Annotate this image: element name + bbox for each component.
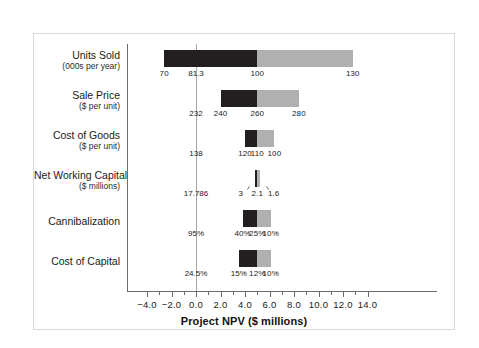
row-label-sub: ($ millions) xyxy=(34,181,120,192)
bar-segment-low xyxy=(164,50,257,67)
label-leader-line xyxy=(247,186,250,190)
tornado-row: Net Working Capital($ millions)17.78632.… xyxy=(34,168,454,208)
x-tick-major xyxy=(147,292,148,297)
breakeven-value-label: 17.786 xyxy=(184,189,208,198)
row-label: Sale Price($ per unit) xyxy=(34,89,120,112)
x-tick-major xyxy=(221,292,222,297)
driver-low-label: 240 xyxy=(214,109,228,118)
row-label: Net Working Capital($ millions) xyxy=(34,169,120,192)
driver-high-label: 100 xyxy=(268,149,282,158)
driver-base-label: 2.1 xyxy=(252,189,263,198)
x-tick-major xyxy=(270,292,271,297)
driver-high-label: 10% xyxy=(263,229,279,238)
bar-segment-low xyxy=(243,210,258,227)
x-axis-title: Project NPV ($ millions) xyxy=(34,315,454,327)
row-label-main: Cannibalization xyxy=(34,215,120,227)
driver-base-label: 110 xyxy=(251,149,264,158)
driver-high-label: 1.6 xyxy=(268,189,279,198)
driver-low-label: 15% xyxy=(231,269,247,278)
x-tick-label: 2.0 xyxy=(214,299,228,310)
x-tick-major xyxy=(319,292,320,297)
x-tick-label: 14.0 xyxy=(358,299,377,310)
x-tick-minor xyxy=(208,292,209,295)
driver-base-label: 100 xyxy=(250,69,264,78)
x-tick-minor xyxy=(282,292,283,295)
bar-segment-low xyxy=(239,250,257,267)
tornado-chart-plot: −4.0−2.00.02.04.06.08.010.012.014.0 Unit… xyxy=(34,34,454,329)
row-label-sub: (000s per year) xyxy=(34,61,120,72)
row-label: Cannibalization xyxy=(34,215,120,227)
x-tick-label: 8.0 xyxy=(287,299,301,310)
bar-segment-high xyxy=(257,130,274,147)
x-tick-major xyxy=(172,292,173,297)
row-label-main: Net Working Capital xyxy=(34,169,120,181)
x-tick-label: 4.0 xyxy=(238,299,252,310)
breakeven-value-label: 138 xyxy=(189,149,202,158)
row-label-main: Sale Price xyxy=(34,89,120,101)
breakeven-value-label: 81.3 xyxy=(188,69,204,78)
x-tick-minor xyxy=(355,292,356,295)
x-tick-minor xyxy=(184,292,185,295)
row-label: Units Sold(000s per year) xyxy=(34,49,120,72)
label-leader-line xyxy=(266,186,269,190)
x-tick-major xyxy=(245,292,246,297)
bar-segment-high xyxy=(257,210,270,227)
x-tick-minor xyxy=(159,292,160,295)
x-tick-minor xyxy=(233,292,234,295)
bar-segment-high xyxy=(257,90,299,107)
bar-segment-high xyxy=(257,170,259,187)
x-tick-major xyxy=(368,292,369,297)
driver-high-label: 280 xyxy=(292,109,306,118)
x-tick-label: −4.0 xyxy=(137,299,157,310)
driver-low-label: 3 xyxy=(239,189,244,198)
tornado-row: Units Sold(000s per year)81.370100130 xyxy=(34,48,454,88)
x-tick-label: 12.0 xyxy=(333,299,352,310)
bar-segment-high xyxy=(257,250,270,267)
x-tick-label: 6.0 xyxy=(263,299,277,310)
breakeven-value-label: 95% xyxy=(188,229,204,238)
tornado-row: Cannibalization95%40%25%10% xyxy=(34,208,454,248)
driver-high-label: 10% xyxy=(263,269,279,278)
x-tick-major xyxy=(294,292,295,297)
row-label-main: Cost of Capital xyxy=(34,255,120,267)
row-label-main: Cost of Goods xyxy=(34,129,120,141)
bar-segment-high xyxy=(257,50,353,67)
x-tick-minor xyxy=(306,292,307,295)
driver-high-label: 130 xyxy=(346,69,360,78)
row-label: Cost of Goods($ per unit) xyxy=(34,129,120,152)
driver-base-label: 260 xyxy=(250,109,264,118)
x-tick-label: −2.0 xyxy=(162,299,182,310)
row-label-sub: ($ per unit) xyxy=(34,101,120,112)
driver-low-label: 70 xyxy=(160,69,169,78)
breakeven-value-label: 24.5% xyxy=(185,269,208,278)
breakeven-value-label: 232 xyxy=(189,109,202,118)
tornado-row: Sale Price($ per unit)232240260280 xyxy=(34,88,454,128)
tornado-row: Cost of Capital24.5%15%12%10% xyxy=(34,248,454,288)
row-label-main: Units Sold xyxy=(34,49,120,61)
x-tick-label: 0.0 xyxy=(189,299,203,310)
bar-segment-low xyxy=(245,130,257,147)
x-tick-minor xyxy=(331,292,332,295)
figure-frame: −4.0−2.00.02.04.06.08.010.012.014.0 Unit… xyxy=(33,33,455,330)
x-tick-label: 10.0 xyxy=(309,299,328,310)
bar-segment-low xyxy=(221,90,258,107)
x-tick-minor xyxy=(257,292,258,295)
row-label: Cost of Capital xyxy=(34,255,120,267)
row-label-sub: ($ per unit) xyxy=(34,141,120,152)
tornado-row: Cost of Goods($ per unit)138120110100 xyxy=(34,128,454,168)
x-tick-major xyxy=(196,292,197,297)
x-tick-major xyxy=(343,292,344,297)
